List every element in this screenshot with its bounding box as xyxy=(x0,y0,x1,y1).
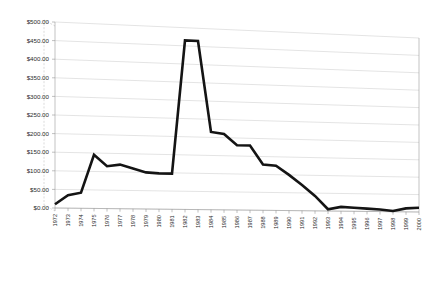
x-tick-label: 1985 xyxy=(221,216,227,228)
x-tick-label: 1980 xyxy=(156,215,162,227)
line-chart: $0.00$50.00$100.00$150.00$200.00$250.00$… xyxy=(0,0,434,285)
x-tick-labels: 1972197319741975197619771978197919801981… xyxy=(52,214,422,230)
x-tick-label: 1993 xyxy=(325,217,331,229)
y-tick-label: $350.00 xyxy=(27,74,50,81)
y-tick-label: $400.00 xyxy=(27,55,50,62)
x-tick-label: 1984 xyxy=(208,216,214,228)
y-tick-label: $200.00 xyxy=(27,130,50,137)
x-tick-label: 1988 xyxy=(260,216,266,228)
plot-area-wall xyxy=(55,22,419,212)
x-tick-label: 1979 xyxy=(143,215,149,227)
x-tick-label: 1989 xyxy=(273,216,279,228)
x-tick-label: 1997 xyxy=(377,218,383,230)
x-tick-label: 1999 xyxy=(403,218,409,230)
x-tick-label: 1995 xyxy=(351,217,357,229)
x-tick-label: 1998 xyxy=(390,218,396,230)
x-tick-label: 1996 xyxy=(364,217,370,229)
chart-container: $0.00$50.00$100.00$150.00$200.00$250.00$… xyxy=(0,0,434,285)
x-tick-label: 2000 xyxy=(416,218,422,230)
y-tick-label: $150.00 xyxy=(27,148,50,155)
y-tick-marks xyxy=(52,22,55,208)
x-tick-label: 1973 xyxy=(65,214,71,226)
x-tick-label: 1977 xyxy=(117,215,123,227)
x-tick-label: 1975 xyxy=(91,214,97,226)
y-tick-label: $300.00 xyxy=(27,93,50,100)
x-tick-label: 1982 xyxy=(182,215,188,227)
y-tick-label: $50.00 xyxy=(30,186,49,193)
x-tick-label: 1981 xyxy=(169,215,175,227)
x-tick-label: 1994 xyxy=(338,217,344,229)
y-tick-label: $100.00 xyxy=(27,167,50,174)
x-tick-label: 1992 xyxy=(312,217,318,229)
x-tick-label: 1986 xyxy=(234,216,240,228)
x-tick-label: 1983 xyxy=(195,216,201,228)
x-tick-label: 1972 xyxy=(52,214,58,226)
x-tick-label: 1978 xyxy=(130,215,136,227)
chart-title xyxy=(0,0,434,5)
x-tick-label: 1987 xyxy=(247,216,253,228)
y-tick-labels: $0.00$50.00$100.00$150.00$200.00$250.00$… xyxy=(27,18,50,211)
y-tick-label: $250.00 xyxy=(27,111,50,118)
x-tick-label: 1974 xyxy=(78,214,84,226)
x-tick-label: 1990 xyxy=(286,217,292,229)
y-tick-label: $0.00 xyxy=(34,204,50,211)
x-tick-label: 1976 xyxy=(104,215,110,227)
x-tick-label: 1991 xyxy=(299,217,305,229)
y-tick-label: $450.00 xyxy=(27,37,50,44)
y-tick-label: $500.00 xyxy=(27,18,50,25)
